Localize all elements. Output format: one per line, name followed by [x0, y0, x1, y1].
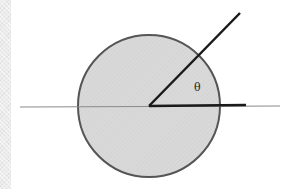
circle-angle-diagram: θ — [0, 0, 293, 189]
theta-label: θ — [194, 81, 201, 94]
horizontal-ray — [149, 105, 246, 106]
